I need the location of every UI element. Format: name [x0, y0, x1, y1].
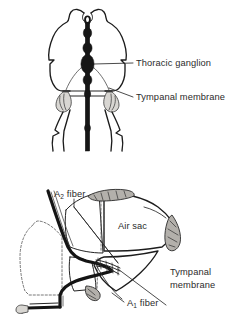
right-attachment-teardrop — [165, 215, 181, 251]
leader-thoracic-ganglion — [94, 63, 133, 64]
label-tympanal-membrane-line1: Tympanal — [170, 267, 211, 277]
figure-thorax-cross-section: Thoracic ganglion Tympanal membrane — [0, 0, 243, 165]
top-attachment-pad — [88, 189, 134, 201]
lower-right-chamber — [94, 251, 158, 291]
leg-right — [112, 112, 123, 151]
label-air-sac: Air sac — [118, 221, 147, 231]
label-tympanal-membrane-line2: membrane — [170, 280, 215, 290]
ganglion-7 — [85, 124, 91, 132]
label-a2-fiber: A2 fiber — [54, 189, 85, 200]
thoracic-ganglion-body — [81, 55, 94, 74]
leg-right-inner — [105, 110, 112, 151]
leg-left — [52, 112, 63, 151]
nerve-cord-chain — [81, 16, 94, 151]
label-a2-fiber-suffix: fiber — [64, 189, 85, 199]
ganglion-3 — [83, 42, 92, 53]
ganglion-ring-top — [86, 17, 89, 22]
label-thoracic-ganglion: Thoracic ganglion — [136, 58, 211, 68]
bottom-body-wall-inner — [30, 303, 58, 304]
bottom-wall-end-cap — [16, 305, 28, 313]
diagram-page: Thoracic ganglion Tympanal membrane — [0, 0, 243, 327]
ganglion-2 — [83, 28, 91, 38]
tympanal-nerve-left — [66, 67, 82, 90]
label-a1-fiber: A1 fiber — [127, 298, 158, 309]
leader-air-sac — [144, 207, 166, 218]
leader-a1-fiber — [112, 293, 124, 302]
figure-ear-lateral-section: A2 fiber Air sac Tympanal membrane A1 fi… — [0, 165, 243, 327]
ganglion-6 — [84, 90, 90, 98]
tympanal-nerve-right — [93, 67, 109, 90]
thorax-outline-left — [49, 9, 84, 91]
thorax-outline-right — [91, 9, 126, 91]
left-chamber-dashed-outline — [20, 221, 62, 295]
label-a1-fiber-suffix: fiber — [137, 298, 158, 308]
ganglion-5 — [83, 75, 92, 86]
label-tympanal-membrane: Tympanal membrane — [136, 92, 225, 102]
leg-left-inner — [63, 110, 70, 151]
upper-left-chamber — [65, 193, 103, 253]
a2-fiber-line — [74, 207, 118, 263]
